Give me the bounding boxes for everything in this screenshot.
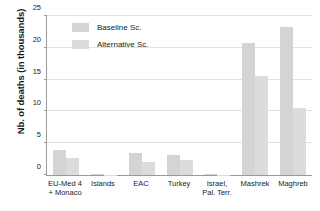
chart-legend: Baseline Sc.Alternative Sc. [72, 20, 149, 54]
legend-label: Alternative Sc. [97, 40, 149, 49]
x-axis-label: Islands [84, 179, 122, 197]
x-axis-label: EU-Med 4 + Monaco [46, 179, 84, 197]
y-tick-label: 25 [33, 3, 41, 12]
legend-item: Baseline Sc. [72, 20, 149, 35]
bar [53, 150, 66, 175]
bar [280, 27, 293, 175]
y-axis-title: Nb. of deaths (in thousands) [15, 0, 26, 152]
bar-group [198, 16, 236, 175]
bar-group [161, 16, 199, 175]
bar [180, 160, 193, 175]
bar [255, 76, 268, 175]
x-axis-label: EAC [122, 179, 160, 197]
x-axis-label: Turkey [160, 179, 198, 197]
bar [167, 155, 180, 175]
bar-group [236, 16, 274, 175]
bar [204, 174, 217, 175]
x-axis-label: Maghreb [274, 179, 312, 197]
x-axis-label: Israel, Pal. Terr. [198, 179, 236, 197]
bar [142, 162, 155, 175]
y-tick-label: 5 [37, 130, 41, 139]
y-tick-label: 15 [33, 66, 41, 75]
legend-swatch [72, 40, 89, 49]
bar [242, 43, 255, 175]
bar [91, 174, 104, 175]
bar-group [274, 16, 312, 175]
x-axis-labels: EU-Med 4 + MonacoIslandsEACTurkeyIsrael,… [46, 179, 312, 197]
x-axis-label: Mashrek [236, 179, 274, 197]
y-tick-label: 20 [33, 34, 41, 43]
bar [66, 158, 79, 175]
legend-swatch [72, 23, 89, 32]
y-tick-label: 0 [37, 162, 41, 171]
y-tick-label: 10 [33, 98, 41, 107]
bar-chart: Nb. of deaths (in thousands) 0510152025 … [0, 0, 320, 211]
bar [129, 153, 142, 175]
bar [293, 108, 306, 175]
legend-label: Baseline Sc. [97, 23, 141, 32]
legend-item: Alternative Sc. [72, 37, 149, 52]
